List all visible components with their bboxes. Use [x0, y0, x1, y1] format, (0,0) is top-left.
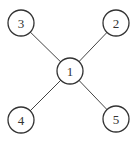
node-5: 5	[103, 106, 129, 132]
node-3: 3	[8, 10, 34, 36]
node-3-label: 3	[18, 16, 25, 31]
node-4: 4	[8, 107, 34, 133]
node-5-label: 5	[113, 112, 120, 127]
node-4-label: 4	[18, 113, 25, 128]
node-2: 2	[103, 10, 129, 36]
star-graph-diagram: 1 2 3 4 5	[0, 0, 135, 142]
node-1: 1	[57, 58, 83, 84]
node-1-label: 1	[67, 64, 74, 79]
node-2-label: 2	[113, 16, 120, 31]
